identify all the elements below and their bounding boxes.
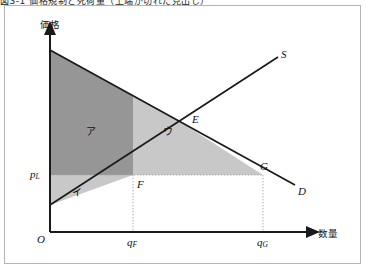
qg-tick: qG [257,236,268,249]
f-point-label: F [137,178,144,190]
region-area-a [50,50,133,175]
region-label-a: ア [86,123,96,138]
supply-demand-plot [0,0,367,272]
supply-curve-label: S [281,48,287,60]
region-area-u [133,96,263,175]
price-ceiling-tick-sub: L [36,172,40,181]
figure-root: 図3-1 価格規制と死荷重（上端が切れた見出し） 価格 数量 O S D [0,0,367,272]
demand-curve-label: D [298,185,306,197]
x-axis-title: 数量 [318,226,338,240]
qf-tick: qF [127,236,137,249]
region-label-u: ウ [163,123,173,138]
qg-tick-sub: G [263,240,268,249]
equilibrium-point-label: E [192,113,199,125]
price-ceiling-tick: pL [30,168,40,181]
origin-label: O [37,233,45,245]
region-area-i [50,175,133,205]
region-label-i: イ [72,184,82,199]
y-axis-title: 価格 [40,17,60,31]
g-point-label: G [260,160,268,172]
qf-tick-sub: F [133,240,138,249]
